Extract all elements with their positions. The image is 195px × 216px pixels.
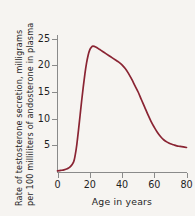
y-tick-label-10: 10 (24, 114, 50, 124)
x-tick-0 (58, 173, 59, 178)
x-tick-80 (187, 173, 188, 178)
y-tick-label-15: 15 (24, 87, 50, 97)
y-tick-5 (52, 145, 57, 146)
chart-figure: Rate of testosterone secretion, milligra… (0, 0, 194, 216)
x-tick-label-0: 0 (45, 180, 71, 190)
y-tick-20 (52, 65, 57, 66)
x-tick-label-40: 40 (109, 180, 135, 190)
y-tick-label-5: 5 (24, 140, 50, 150)
y-tick-label-25: 25 (24, 34, 50, 44)
y-tick-label-20: 20 (24, 60, 50, 70)
x-tick-label-20: 20 (77, 180, 103, 190)
x-tick-label-60: 60 (141, 180, 167, 190)
x-tick-label-80: 80 (174, 180, 195, 190)
x-tick-40 (122, 173, 123, 178)
x-tick-60 (154, 173, 155, 178)
plot-area: 510152025 020406080 (0, 0, 194, 216)
y-tick-15 (52, 92, 57, 93)
x-tick-20 (90, 173, 91, 178)
x-axis-title: Age in years (50, 196, 194, 207)
y-tick-10 (52, 119, 57, 120)
testosterone-curve (58, 46, 187, 171)
y-tick-25 (52, 39, 57, 40)
y-axis-line (57, 35, 58, 173)
